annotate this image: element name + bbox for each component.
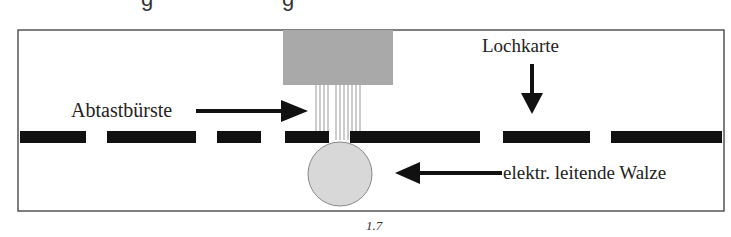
- arrow-left-icon: [395, 162, 502, 184]
- punch-card-strip: [20, 131, 722, 143]
- figure-caption: 1.7: [366, 219, 382, 232]
- brush-head-block: [283, 30, 393, 85]
- arrow-right-icon: [196, 100, 308, 122]
- card-segment: [350, 131, 480, 143]
- card-segment: [285, 131, 329, 143]
- label-lochkarte: Lochkarte: [482, 36, 559, 55]
- card-segment: [107, 131, 196, 143]
- conductive-roller: [308, 142, 372, 206]
- label-walze: elektr. leitende Walze: [503, 163, 666, 182]
- card-segment: [20, 131, 86, 143]
- card-segment: [217, 131, 261, 143]
- card-segment: [611, 131, 722, 143]
- card-segment: [503, 131, 590, 143]
- arrow-down-icon: [521, 64, 543, 114]
- label-abtastbuerste: Abtastbürste: [71, 100, 172, 120]
